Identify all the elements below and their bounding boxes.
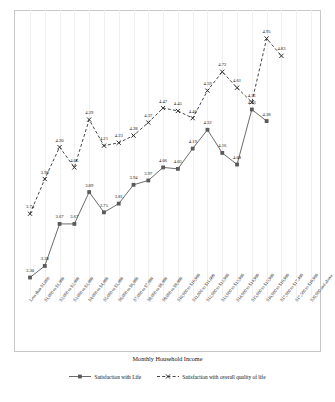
data-value-label: 4.95 [263,30,271,35]
legend-item-2[interactable]: Satisfaction with overall quality of lif… [157,373,265,380]
data-value-label: 3.94 [129,176,137,181]
data-value-label: 4.45 [174,102,182,107]
data-point-marker [28,276,32,280]
data-value-label: 3.98 [41,171,49,176]
legend-key-solid-square-icon [69,373,91,380]
data-point-marker [176,109,180,113]
data-value-label: 4.59 [203,82,211,87]
data-point-marker [87,190,91,194]
data-value-label: 4.38 [263,113,271,118]
data-point-marker [265,119,269,123]
data-point-marker [220,151,224,155]
data-point-marker [132,183,136,187]
data-value-label: 3.30 [26,269,34,274]
data-point-marker [191,147,195,151]
data-value-label: 4.39 [85,111,93,116]
data-value-label: 4.19 [189,140,197,145]
data-point-marker [117,202,121,206]
data-value-label: 3.89 [85,184,93,189]
data-point-marker [102,210,106,214]
data-value-label: 4.28 [129,127,137,132]
data-point-marker [117,141,121,145]
data-point-marker [176,167,180,171]
data-point-marker [235,163,239,167]
data-point-marker [250,108,254,112]
data-point-marker [146,120,150,124]
series-layer [14,10,321,298]
data-point-marker [191,116,195,120]
data-value-label: 4.21 [100,137,108,142]
data-point-marker [235,86,239,90]
data-value-label: 4.05 [174,160,182,165]
data-value-label: 3.97 [144,172,152,177]
data-value-label: 3.74 [26,205,34,210]
data-point-marker [43,264,47,268]
data-point-marker [58,222,62,226]
plot-area: 3.303.383.673.673.893.753.813.943.974.06… [14,10,321,298]
data-value-label: 4.23 [115,134,123,139]
data-point-marker [220,70,224,74]
data-value-label: 3.67 [70,215,78,220]
data-point-marker [28,212,32,216]
chart-container: 3.303.383.673.673.893.753.813.943.974.06… [0,0,335,402]
data-value-label: 4.61 [233,79,241,84]
legend-key-dashed-x-icon [157,373,179,380]
data-value-label: 3.38 [41,257,49,262]
data-value-label: 4.51 [248,94,256,99]
data-point-marker [205,89,209,93]
x-axis-tick-labels: Less than $1,000$1,000 to $1,999$2,000 t… [14,300,321,352]
legend-label: Satisfaction with Life [94,374,141,380]
data-value-label: 4.20 [56,139,64,144]
data-value-label: 3.75 [100,204,108,209]
data-value-label: 4.32 [203,121,211,126]
data-point-marker [57,145,61,149]
data-value-label: 4.40 [189,110,197,115]
data-point-marker [43,177,47,181]
data-point-marker [72,222,76,226]
legend-item-1[interactable]: Satisfaction with Life [69,373,141,380]
data-point-marker [279,54,283,58]
data-value-label: 4.47 [159,100,167,105]
data-value-label: 4.06 [159,159,167,164]
x-axis-title: Monthly Household Income [0,355,335,362]
legend-label: Satisfaction with overall quality of lif… [182,374,265,380]
data-point-marker [146,179,150,183]
data-value-label: 4.83 [277,47,285,52]
data-value-label: 4.08 [233,156,241,161]
data-value-label: 4.72 [218,63,226,68]
chart-legend: Satisfaction with LifeSatisfaction with … [0,373,335,380]
data-value-label: 4.37 [144,114,152,119]
data-value-label: 4.06 [70,159,78,164]
series-line-1 [30,109,267,277]
data-value-label: 4.16 [218,144,226,149]
data-point-marker [131,133,135,137]
series-line-2 [30,38,281,213]
data-point-marker [161,166,165,170]
data-point-marker [206,128,210,132]
data-value-label: 3.67 [56,215,64,220]
data-value-label: 3.81 [115,195,123,200]
data-value-label: 4.46 [248,101,256,106]
